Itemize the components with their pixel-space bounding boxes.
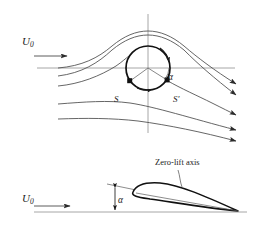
angle-label-cylinder: α [168, 73, 173, 83]
angle-label-airfoil: α [118, 196, 123, 206]
freestream-symbol-top: U [22, 35, 30, 47]
streamline-3-front [58, 56, 129, 86]
streamline-4 [58, 101, 236, 130]
freestream-symbol-bottom: U [22, 192, 30, 204]
freestream-subscript-bottom: 0 [30, 197, 34, 206]
airfoil-outline [133, 183, 238, 211]
figure-root: U0 U0 S S' α α Zero-lift axis [0, 0, 259, 229]
freestream-subscript-top: 0 [30, 40, 34, 49]
freestream-label-top: U0 [22, 36, 34, 47]
stagnation-point-front-label: S [114, 95, 119, 104]
radius-to-stagnation-front [130, 68, 148, 81]
zero-lift-axis-leader [178, 170, 182, 187]
streamline-2 [58, 35, 236, 95]
streamline-1 [58, 31, 236, 84]
radius-to-stagnation-rear [148, 68, 167, 80]
zero-lift-axis-label: Zero-lift axis [155, 158, 200, 167]
stagnation-point-front-marker [127, 78, 132, 83]
figure-canvas [0, 0, 259, 229]
stagnation-point-rear-label: S' [173, 95, 179, 104]
streamline-5 [58, 118, 236, 141]
freestream-label-bottom: U0 [22, 193, 34, 204]
